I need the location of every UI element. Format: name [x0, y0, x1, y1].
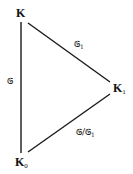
galois-triangle-diagram: K K1 K0 𝔊 𝔊1 𝔊/𝔊1 [0, 0, 133, 174]
edge-k-k1 [28, 23, 110, 82]
edge-label-g-over-g1: 𝔊/𝔊1 [76, 127, 95, 138]
edge-k1-k0 [28, 94, 110, 152]
edge-label-g: 𝔊 [7, 76, 13, 86]
node-k1: K1 [113, 81, 126, 96]
node-k0: K0 [15, 155, 28, 170]
node-k: K [16, 6, 26, 20]
edge-label-g1: 𝔊1 [74, 39, 84, 50]
